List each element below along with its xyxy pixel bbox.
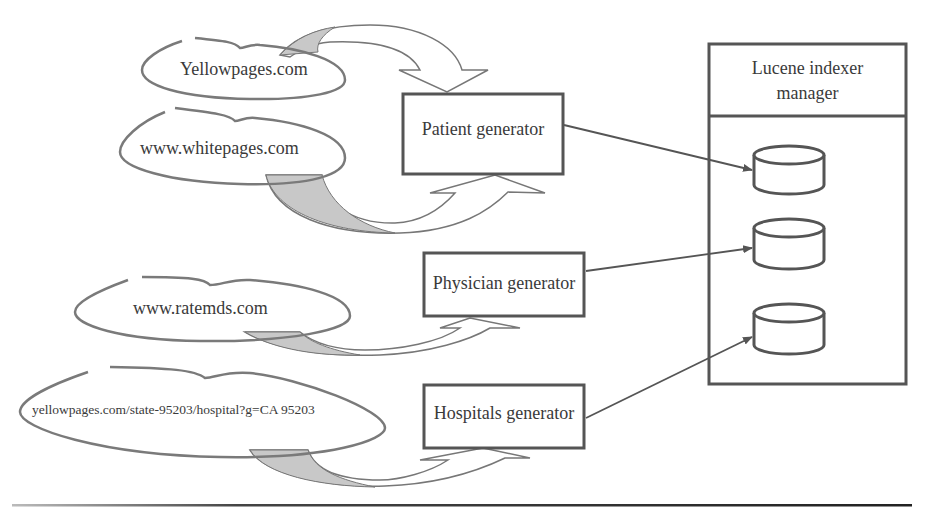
source-label-hospital-yp: yellowpages.com/state-95203/hospital?g=C… (32, 402, 315, 418)
lucene-manager-title: Lucene indexer manager (709, 56, 906, 106)
lucene-manager-title-line2: manager (709, 81, 906, 106)
lucene-manager-title-line1: Lucene indexer (709, 56, 906, 81)
database-icon-index-3 (754, 304, 824, 354)
curved-arrow-yellowpages-to-patient (280, 25, 488, 92)
source-label-yellowpages: Yellowpages.com (180, 59, 308, 80)
patient-generator-label: Patient generator (403, 119, 563, 140)
curved-arrow-whitepages-to-patient (266, 175, 545, 233)
physician-generator-label: Physician generator (424, 273, 584, 294)
database-icon-index-2 (754, 219, 824, 269)
bottom-rule (12, 504, 912, 507)
hospitals-generator-label: Hospitals generator (424, 403, 584, 424)
database-icon-index-1 (754, 146, 824, 194)
source-label-whitepages: www.whitepages.com (140, 138, 299, 159)
source-label-ratemds: www.ratemds.com (133, 298, 268, 319)
